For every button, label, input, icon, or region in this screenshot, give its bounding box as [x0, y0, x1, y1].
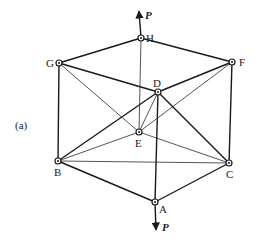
node-label-B: B: [54, 166, 61, 178]
member-D-C: [158, 92, 229, 163]
member-B-C: [58, 161, 229, 163]
truss-diagram: P P H G F D E B C A (a): [0, 0, 262, 245]
joint-H-icon: [138, 35, 144, 41]
node-label-C: C: [226, 168, 233, 180]
member-B-E: [58, 132, 139, 161]
member-D-A: [155, 92, 158, 202]
member-G-H: [59, 38, 141, 63]
joint-G-icon: [56, 60, 62, 66]
figure-label: (a): [15, 119, 28, 132]
load-arrow-up-icon: [139, 11, 141, 38]
member-F-C: [229, 62, 232, 163]
joint-F-icon: [229, 59, 235, 65]
member-A-C: [155, 163, 229, 202]
joint-C-icon: [226, 160, 232, 166]
node-label-H: H: [146, 32, 154, 44]
joint-E-icon: [136, 129, 142, 135]
member-B-A: [58, 161, 155, 202]
member-B-D: [58, 92, 158, 161]
load-label-bottom: P: [162, 221, 169, 233]
node-label-F: F: [239, 56, 245, 68]
joint-D-icon: [155, 89, 161, 95]
node-label-G: G: [46, 57, 54, 69]
member-G-D: [59, 63, 158, 92]
member-G-B: [58, 63, 59, 161]
member-E-C: [139, 132, 229, 163]
joint-A-icon: [152, 199, 158, 205]
node-label-A: A: [159, 203, 167, 215]
node-labels: H G F D E B C A: [46, 32, 245, 215]
load-arrow-down-icon: [155, 202, 156, 230]
member-D-F: [158, 62, 232, 92]
load-label-top: P: [145, 9, 152, 21]
member-G-E: [59, 63, 139, 132]
member-E-F: [139, 62, 232, 132]
node-label-D: D: [153, 77, 161, 89]
member-H-F: [141, 38, 232, 62]
member-H-E: [139, 38, 141, 132]
node-label-E: E: [135, 137, 142, 149]
joint-B-icon: [55, 158, 61, 164]
